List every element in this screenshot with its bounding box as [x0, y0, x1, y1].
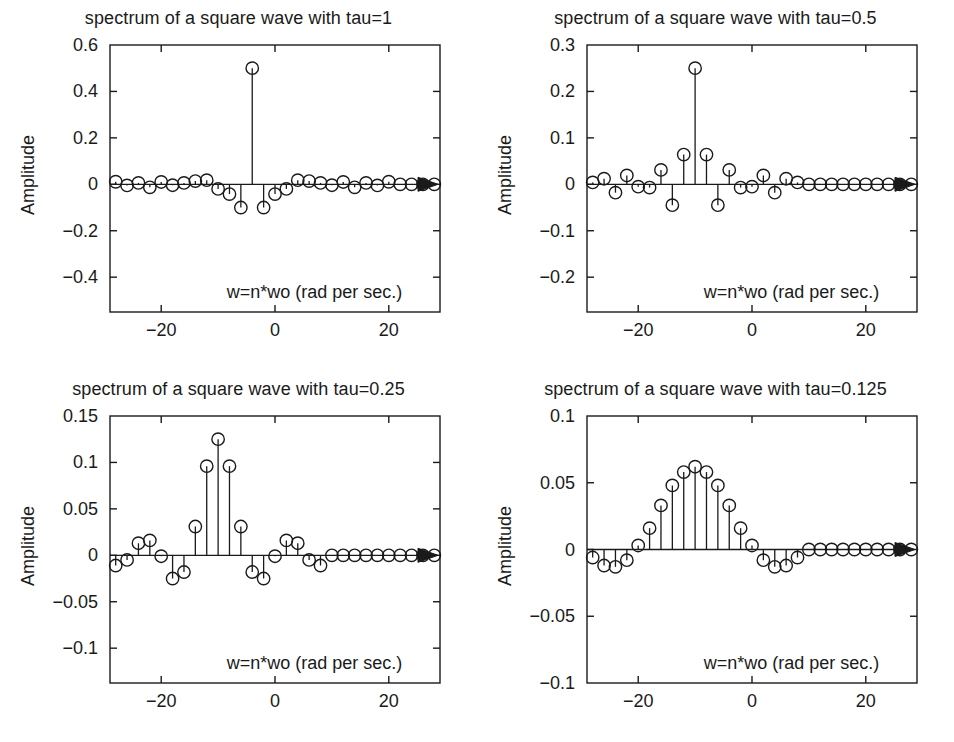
subplot-tau-0-125: spectrum of a square wave with tau=0.125…	[477, 371, 954, 742]
y-tick-label: 0.2	[550, 81, 575, 101]
x-tick-label: 20	[379, 691, 399, 711]
y-tick-label: 0.3	[550, 35, 575, 55]
x-tick-label: 20	[856, 691, 876, 711]
x-tick-label: 0	[747, 320, 757, 340]
figure-canvas: spectrum of a square wave with tau=1 Amp…	[0, 0, 954, 742]
x-tick-label: −20	[623, 691, 654, 711]
y-tick-label: 0.05	[540, 473, 575, 493]
x-tick-label: −20	[623, 320, 654, 340]
x-tick-label: −20	[146, 691, 177, 711]
subplot-tau-1: spectrum of a square wave with tau=1 Amp…	[0, 0, 477, 371]
plot-area-tau-0-25: 0.150.10.050−0.05−0.1−20020w=n*wo (rad p…	[0, 371, 477, 742]
y-tick-label: 0	[565, 174, 575, 194]
y-tick-label: −0.1	[539, 673, 575, 693]
y-tick-label: 0	[565, 540, 575, 560]
y-tick-label: −0.05	[52, 592, 98, 612]
x-axis-note: w=n*wo (rad per sec.)	[226, 282, 403, 302]
x-axis-note: w=n*wo (rad per sec.)	[703, 282, 880, 302]
y-tick-label: −0.1	[539, 221, 575, 241]
x-tick-label: 0	[270, 691, 280, 711]
subplot-tau-0-5: spectrum of a square wave with tau=0.5 A…	[477, 0, 954, 371]
y-tick-label: 0.1	[550, 406, 575, 426]
subplot-tau-0-25: spectrum of a square wave with tau=0.25 …	[0, 371, 477, 742]
x-axis-note: w=n*wo (rad per sec.)	[226, 653, 403, 673]
plot-frame	[110, 45, 440, 312]
y-tick-label: 0.1	[73, 452, 98, 472]
y-tick-label: 0.1	[550, 128, 575, 148]
y-tick-label: −0.4	[62, 267, 98, 287]
x-axis-note: w=n*wo (rad per sec.)	[703, 653, 880, 673]
y-tick-label: −0.2	[539, 267, 575, 287]
y-tick-label: −0.1	[62, 638, 98, 658]
y-tick-label: 0.15	[63, 406, 98, 426]
plot-area-tau-0-125: 0.10.050−0.05−0.1−20020w=n*wo (rad per s…	[477, 371, 954, 742]
x-tick-label: 20	[856, 320, 876, 340]
x-tick-label: 0	[747, 691, 757, 711]
y-tick-label: 0	[88, 545, 98, 565]
x-tick-label: 0	[270, 320, 280, 340]
y-tick-label: 0.6	[73, 35, 98, 55]
y-tick-label: 0.2	[73, 128, 98, 148]
y-tick-label: 0	[88, 174, 98, 194]
y-tick-label: 0.05	[63, 499, 98, 519]
x-tick-label: 20	[379, 320, 399, 340]
y-tick-label: −0.2	[62, 221, 98, 241]
plot-area-tau-0-5: 0.30.20.10−0.1−0.2−20020w=n*wo (rad per …	[477, 0, 954, 371]
plot-area-tau-1: 0.60.40.20−0.2−0.4−20020w=n*wo (rad per …	[0, 0, 477, 371]
y-tick-label: 0.4	[73, 81, 98, 101]
y-tick-label: −0.05	[529, 606, 575, 626]
x-tick-label: −20	[146, 320, 177, 340]
